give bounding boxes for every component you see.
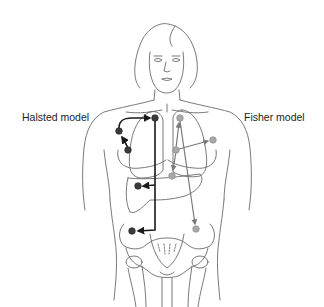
halsted-nodes: [116, 115, 159, 235]
fisher-node-primary: [173, 147, 180, 154]
fisher-arrow-to-pelvis: [180, 121, 195, 224]
halsted-node-pelvis: [129, 228, 136, 235]
fisher-node-lung: [177, 115, 184, 122]
fisher-arrow-to-lung: [176, 123, 179, 148]
halsted-pathways: [119, 118, 155, 231]
fisher-node-pelvis: [193, 226, 200, 233]
halsted-arrow-to-pelvis: [138, 120, 155, 231]
fisher-model-label: Fisher model: [244, 111, 305, 123]
halsted-arrow-to-liver: [143, 185, 155, 186]
fisher-node-axilla: [210, 137, 217, 144]
halsted-node-axilla-upper: [116, 128, 123, 135]
fisher-node-liver: [169, 173, 176, 180]
halsted-arrow-lower-to-upper-axilla: [122, 137, 128, 148]
halsted-arrow-axilla-to-breast: [119, 118, 150, 128]
halsted-node-liver: [135, 183, 142, 190]
halsted-model-label: Halsted model: [22, 111, 89, 123]
halsted-node-axilla-lower: [125, 147, 132, 154]
anatomy-diagram: [0, 0, 324, 307]
body-outline: [83, 24, 252, 307]
halsted-node-primary: [152, 115, 159, 122]
